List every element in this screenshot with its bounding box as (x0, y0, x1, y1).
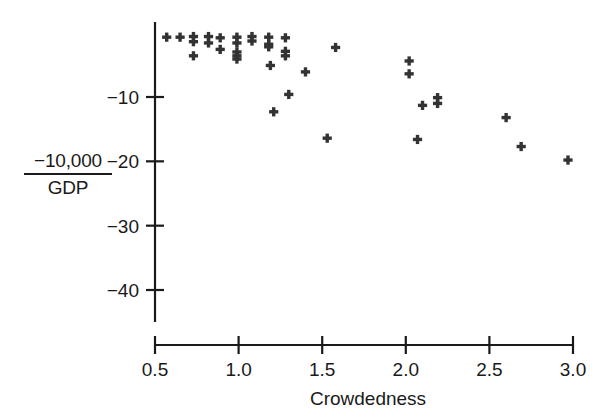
data-point (204, 38, 213, 47)
x-axis-tick-label: 1.0 (225, 359, 251, 380)
marker-arm-vertical (519, 142, 522, 151)
data-point (502, 113, 511, 122)
data-point (413, 135, 422, 144)
y-axis-title-denominator: GDP (22, 177, 114, 198)
marker-arm-vertical (207, 38, 210, 47)
data-point (266, 61, 275, 70)
plot-canvas: −10−20−30−40 0.51.01.52.02.53.0 Crowdedn… (0, 0, 603, 414)
data-point (269, 107, 278, 116)
x-axis-title-group: Crowdedness (310, 388, 426, 409)
marker-arm-vertical (192, 37, 195, 46)
marker-arm-vertical (219, 33, 222, 42)
marker-arm-vertical (304, 67, 307, 76)
data-point (189, 51, 198, 60)
marker-arm-vertical (250, 36, 253, 45)
data-point (517, 142, 526, 151)
data-point (331, 43, 340, 52)
marker-arm-vertical (326, 134, 329, 143)
y-axis-tick-label: −30 (107, 216, 139, 237)
data-point (162, 33, 171, 42)
marker-arm-vertical (407, 69, 410, 78)
marker-arm-vertical (235, 54, 238, 63)
y-axis-tick-label: −40 (107, 280, 139, 301)
marker-arm-vertical (287, 90, 290, 99)
data-point (323, 134, 332, 143)
marker-arm-vertical (421, 101, 424, 110)
data-point (418, 101, 427, 110)
data-point (216, 33, 225, 42)
marker-arm-vertical (334, 43, 337, 52)
data-point (216, 45, 225, 54)
marker-arm-vertical (269, 61, 272, 70)
marker-arm-vertical (416, 135, 419, 144)
marker-arm-vertical (284, 51, 287, 60)
fraction-bar (24, 173, 112, 175)
data-point (281, 33, 290, 42)
data-point (175, 33, 184, 42)
marker-arm-vertical (192, 51, 195, 60)
y-axis-tick-label: −10 (107, 87, 139, 108)
marker-arm-vertical (235, 38, 238, 47)
y-axis: −10−20−30−40 (107, 22, 164, 322)
data-point (405, 69, 414, 78)
data-point (284, 90, 293, 99)
marker-arm-vertical (566, 155, 569, 164)
scatter-plot-figure: −10,000 GDP −10−20−30−40 0.51.01.52.02.5… (0, 0, 603, 414)
marker-arm-vertical (407, 56, 410, 65)
x-axis-tick-label: 1.5 (309, 359, 335, 380)
marker-arm-vertical (504, 113, 507, 122)
data-point (189, 37, 198, 46)
x-axis: 0.51.01.52.02.53.0 (142, 336, 586, 380)
marker-arm-vertical (284, 33, 287, 42)
x-axis-tick-label: 3.0 (560, 359, 586, 380)
marker-arm-vertical (267, 42, 270, 51)
x-axis-tick-label: 2.5 (476, 359, 502, 380)
x-axis-tick-label: 2.0 (393, 359, 419, 380)
marker-arm-vertical (436, 99, 439, 108)
x-axis-title: Crowdedness (310, 388, 426, 409)
marker-arm-vertical (178, 33, 181, 42)
marker-arm-vertical (165, 33, 168, 42)
data-point (563, 155, 572, 164)
data-point (433, 99, 442, 108)
marker-arm-vertical (219, 45, 222, 54)
x-axis-tick-label: 0.5 (142, 359, 168, 380)
data-point (232, 38, 241, 47)
data-point (405, 56, 414, 65)
y-axis-title: −10,000 GDP (22, 151, 114, 198)
data-point (301, 67, 310, 76)
y-axis-title-numerator: −10,000 (22, 151, 114, 172)
marker-arm-vertical (272, 107, 275, 116)
data-points-layer (162, 32, 572, 165)
